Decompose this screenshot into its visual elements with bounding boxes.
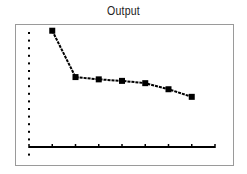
y-axis-dot (28, 93, 30, 95)
y-axis-dot (28, 138, 30, 140)
y-axis-dot (28, 100, 30, 102)
data-point (142, 80, 148, 86)
y-axis-dot (28, 116, 30, 118)
y-axis-dot (28, 40, 30, 42)
y-axis-dot (28, 55, 30, 57)
y-axis-dot (28, 70, 30, 72)
data-point (73, 74, 79, 80)
plot-frame (16, 25, 234, 166)
y-axis-dot (28, 62, 30, 64)
plot-area (0, 0, 247, 174)
y-axis-dot (28, 108, 30, 110)
y-axis-dot (28, 123, 30, 125)
series-output (49, 28, 195, 100)
y-axis-dot (28, 47, 30, 49)
data-point (166, 86, 172, 92)
y-axis-dot (28, 32, 30, 34)
data-point (119, 78, 125, 84)
y-axis-dots (28, 32, 30, 156)
y-axis-dot (28, 131, 30, 133)
x-axis (29, 144, 215, 148)
y-axis-dot (28, 85, 30, 87)
data-point (189, 94, 195, 100)
y-axis-dot (28, 78, 30, 80)
data-point (96, 76, 102, 82)
y-axis-dot (28, 154, 30, 156)
data-point (49, 28, 55, 34)
